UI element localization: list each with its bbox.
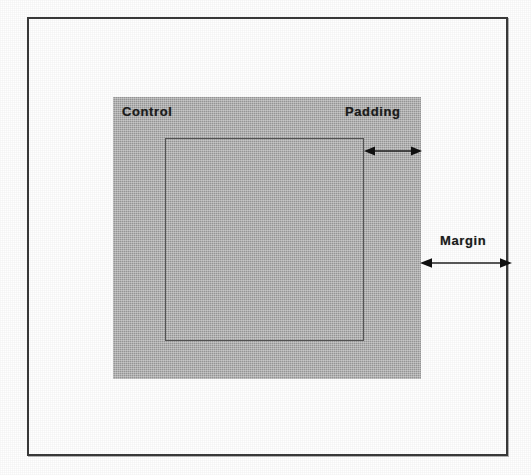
margin-measure-arrow-icon	[418, 250, 514, 276]
diagram-screenshot: Control Padding Margin	[0, 0, 531, 475]
inner-content-box	[165, 138, 364, 341]
padding-measure-arrow-icon	[362, 138, 424, 164]
padding-label: Padding	[345, 104, 400, 119]
margin-label: Margin	[440, 233, 486, 248]
control-label: Control	[122, 104, 172, 119]
